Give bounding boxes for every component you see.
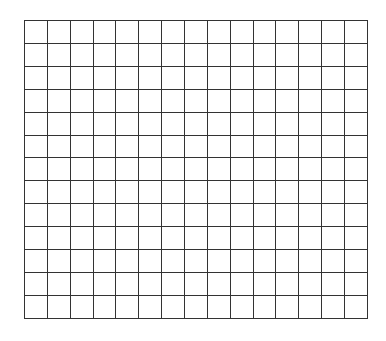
grid-cell [116, 227, 139, 250]
grid-cell [48, 21, 71, 44]
grid-cell [185, 136, 208, 159]
grid-cell [94, 158, 117, 181]
grid-cell [71, 181, 94, 204]
grid-cell [322, 44, 345, 67]
grid-cell [276, 21, 299, 44]
grid-cell [254, 21, 277, 44]
grid-cell [162, 113, 185, 136]
grid-cell [94, 21, 117, 44]
grid-cell [254, 273, 277, 296]
grid-cell [48, 250, 71, 273]
grid-cell [48, 158, 71, 181]
grid-cell [116, 204, 139, 227]
grid-cell [276, 113, 299, 136]
grid-cell [162, 273, 185, 296]
grid-cell [139, 227, 162, 250]
grid-cell [116, 113, 139, 136]
grid-cell [322, 296, 345, 319]
grid-cell [208, 181, 231, 204]
grid-cell [71, 90, 94, 113]
grid-cell [208, 67, 231, 90]
grid-cell [254, 204, 277, 227]
grid-cell [25, 21, 48, 44]
grid-cell [231, 67, 254, 90]
grid-cell [94, 227, 117, 250]
grid-cell [25, 136, 48, 159]
grid-cell [48, 113, 71, 136]
grid-cell [139, 67, 162, 90]
grid-cell [139, 44, 162, 67]
grid-cell [25, 227, 48, 250]
grid-cell [231, 136, 254, 159]
grid-cell [25, 296, 48, 319]
grid-cell [25, 44, 48, 67]
grid-cell [322, 158, 345, 181]
grid-cell [139, 296, 162, 319]
grid-cell [231, 90, 254, 113]
grid-cell [322, 21, 345, 44]
grid-cell [48, 44, 71, 67]
grid-cell [345, 227, 368, 250]
grid-cell [185, 204, 208, 227]
grid-cell [276, 136, 299, 159]
grid-cell [276, 90, 299, 113]
grid-cell [231, 158, 254, 181]
grid-cell [322, 136, 345, 159]
grid-cell [94, 44, 117, 67]
grid-cell [25, 204, 48, 227]
grid-cell [322, 67, 345, 90]
grid-cell [25, 67, 48, 90]
grid-cell [231, 44, 254, 67]
grid-cell [345, 296, 368, 319]
grid-cell [345, 136, 368, 159]
grid-cell [208, 158, 231, 181]
grid-cell [299, 136, 322, 159]
grid-cell [71, 44, 94, 67]
grid-cell [299, 204, 322, 227]
grid-cell [345, 273, 368, 296]
grid-cell [322, 273, 345, 296]
grid-cell [185, 250, 208, 273]
grid-cell [162, 21, 185, 44]
grid-cell [94, 250, 117, 273]
grid-cell [94, 273, 117, 296]
grid-cell [48, 67, 71, 90]
grid-cell [322, 181, 345, 204]
grid-cell [231, 227, 254, 250]
grid-cell [276, 158, 299, 181]
grid-cell [116, 273, 139, 296]
grid-cell [254, 181, 277, 204]
grid-cell [254, 44, 277, 67]
grid-cell [185, 181, 208, 204]
grid-cell [276, 273, 299, 296]
grid-cell [299, 296, 322, 319]
grid-cell [71, 227, 94, 250]
grid-cell [116, 90, 139, 113]
grid-cell [208, 44, 231, 67]
grid-cell [116, 44, 139, 67]
grid-cell [185, 227, 208, 250]
grid-cell [276, 44, 299, 67]
grid-cell [322, 250, 345, 273]
grid-cell [71, 204, 94, 227]
grid-cell [345, 181, 368, 204]
grid-cell [139, 136, 162, 159]
grid-cell [299, 67, 322, 90]
grid-cell [25, 250, 48, 273]
grid-cell [208, 90, 231, 113]
grid-cell [116, 21, 139, 44]
grid-cell [185, 273, 208, 296]
grid-cell [139, 158, 162, 181]
grid-cell [139, 250, 162, 273]
grid-cell [139, 204, 162, 227]
grid-cell [71, 67, 94, 90]
grid-cell [48, 136, 71, 159]
grid-cell [276, 250, 299, 273]
grid-cell [71, 21, 94, 44]
grid-cell [71, 250, 94, 273]
grid-cell [345, 113, 368, 136]
grid-cell [71, 158, 94, 181]
grid-cell [322, 90, 345, 113]
grid-cell [94, 113, 117, 136]
grid-cell [162, 90, 185, 113]
